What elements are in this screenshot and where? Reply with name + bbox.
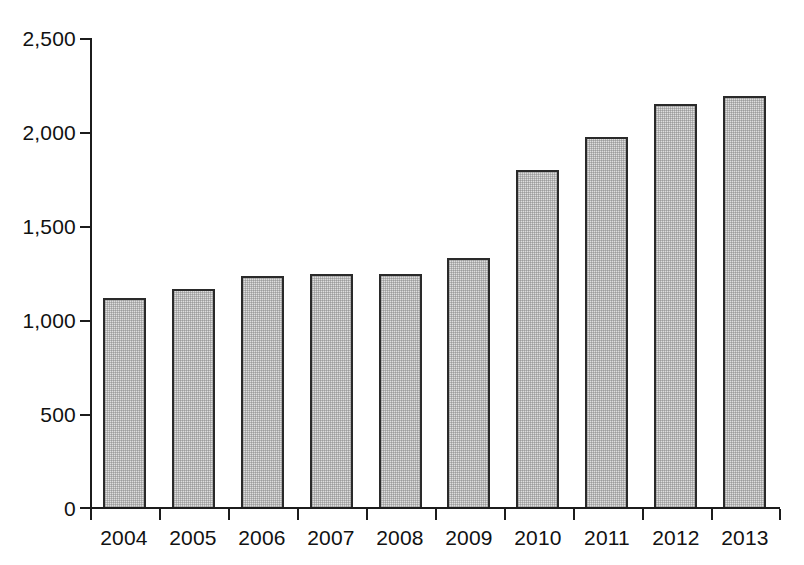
x-axis-tick-0 (90, 509, 92, 520)
bar-2010[interactable] (516, 170, 559, 509)
bar-2004[interactable] (103, 298, 146, 509)
bar-2005[interactable] (172, 289, 215, 509)
x-tick-label-2008: 2008 (366, 526, 434, 550)
x-axis-tick-8 (642, 509, 644, 520)
x-tick-label-2012: 2012 (642, 526, 710, 550)
bar-chart: 2,500 2,000 1,500 1,000 500 0 2004 2005 … (0, 0, 804, 565)
x-tick-label-2013: 2013 (711, 526, 779, 550)
x-tick-label-2004: 2004 (90, 526, 158, 550)
x-axis-tick-1 (159, 509, 161, 520)
x-axis-tick-10 (779, 509, 781, 520)
bar-2011[interactable] (585, 137, 628, 509)
x-axis-tick-2 (228, 509, 230, 520)
bar-2007[interactable] (310, 274, 353, 510)
x-tick-label-2007: 2007 (297, 526, 365, 550)
bar-2012[interactable] (654, 104, 697, 509)
x-axis-tick-5 (435, 509, 437, 520)
x-tick-label-2005: 2005 (159, 526, 227, 550)
x-tick-label-2006: 2006 (228, 526, 296, 550)
plot-area (0, 0, 804, 565)
bar-2009[interactable] (447, 258, 490, 510)
bar-2008[interactable] (379, 274, 422, 510)
x-axis-tick-6 (504, 509, 506, 520)
x-axis-tick-7 (573, 509, 575, 520)
bar-2006[interactable] (241, 276, 284, 509)
x-axis-tick-9 (711, 509, 713, 520)
x-tick-label-2009: 2009 (435, 526, 503, 550)
x-tick-label-2010: 2010 (504, 526, 572, 550)
bar-2013[interactable] (723, 96, 766, 510)
x-tick-label-2011: 2011 (573, 526, 641, 550)
x-axis-tick-4 (366, 509, 368, 520)
x-axis-tick-3 (297, 509, 299, 520)
